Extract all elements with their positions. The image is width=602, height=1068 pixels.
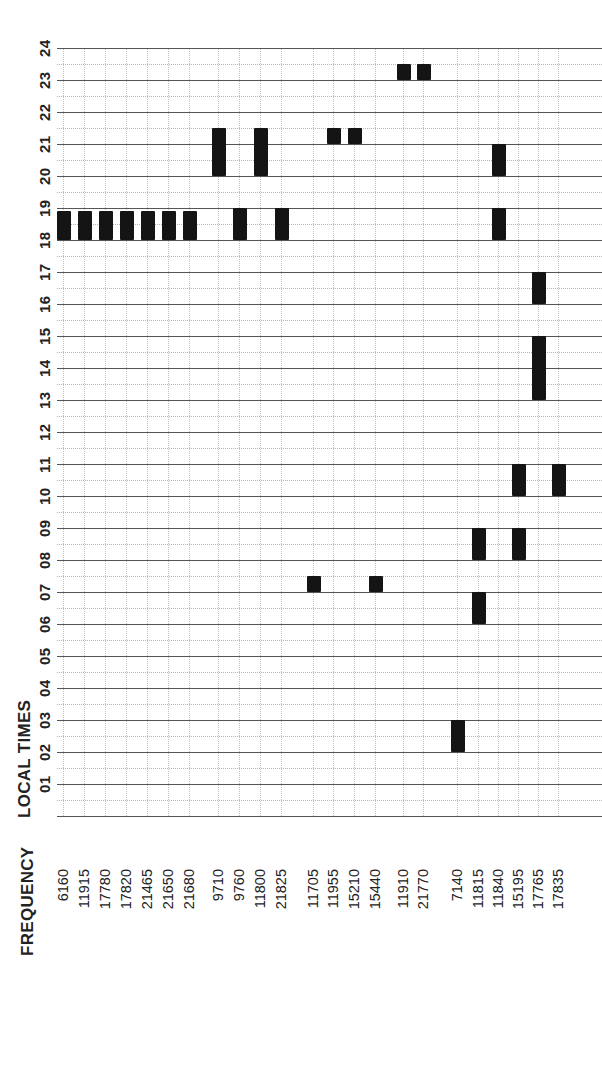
frequency-tick-label: 21680 — [181, 869, 197, 929]
schedule-bar — [451, 720, 465, 752]
schedule-bar — [492, 208, 506, 240]
half-hour-gridline — [57, 704, 602, 705]
half-hour-gridline — [57, 736, 602, 737]
schedule-bar — [369, 576, 383, 592]
hour-tick-label: 09 — [36, 519, 53, 537]
half-hour-gridline — [57, 416, 602, 417]
hour-tick-label: 03 — [36, 711, 53, 729]
schedule-bar — [141, 211, 155, 240]
half-hour-gridline — [57, 256, 602, 257]
schedule-bar — [120, 211, 134, 240]
frequency-tick-label: 6160 — [55, 869, 71, 929]
half-hour-gridline — [57, 640, 602, 641]
frequency-schedule-chart: 0102030405060708091011121314151617181920… — [0, 0, 602, 1068]
schedule-bar — [162, 211, 176, 240]
hour-tick-label: 17 — [36, 263, 53, 281]
half-hour-gridline — [57, 608, 602, 609]
frequency-tick-label: 9710 — [210, 869, 226, 929]
half-hour-gridline — [57, 672, 602, 673]
hour-tick-label: 21 — [36, 135, 53, 153]
hour-gridline — [57, 368, 602, 369]
x-axis-title: FREQUENCY — [18, 847, 38, 956]
schedule-bar — [532, 336, 546, 400]
hour-gridline — [57, 752, 602, 753]
half-hour-gridline — [57, 768, 602, 769]
hour-tick-label: 14 — [36, 359, 53, 377]
half-hour-gridline — [57, 192, 602, 193]
frequency-tick-label: 9760 — [231, 869, 247, 929]
hour-gridline — [57, 336, 602, 337]
hour-gridline — [57, 816, 602, 817]
schedule-bar — [307, 576, 321, 592]
hour-gridline — [57, 240, 602, 241]
frequency-tick-label: 15195 — [510, 869, 526, 929]
hour-gridline — [57, 272, 602, 273]
frequency-tick-label: 11705 — [305, 869, 321, 929]
hour-gridline — [57, 496, 602, 497]
hour-gridline — [57, 144, 602, 145]
hour-gridline — [57, 784, 602, 785]
schedule-bar — [183, 211, 197, 240]
half-hour-gridline — [57, 320, 602, 321]
hour-tick-label: 24 — [36, 39, 53, 57]
schedule-bar — [512, 464, 526, 496]
y-axis-title: LOCAL TIMES — [15, 700, 35, 818]
frequency-tick-label: 21825 — [273, 869, 289, 929]
hour-tick-label: 07 — [36, 583, 53, 601]
hour-tick-label: 06 — [36, 615, 53, 633]
hour-tick-label: 08 — [36, 551, 53, 569]
hour-gridline — [57, 656, 602, 657]
hour-gridline — [57, 624, 602, 625]
hour-tick-label: 19 — [36, 199, 53, 217]
hour-gridline — [57, 432, 602, 433]
frequency-tick-label: 17835 — [550, 869, 566, 929]
schedule-bar — [532, 272, 546, 304]
frequency-tick-label: 11910 — [395, 869, 411, 929]
hour-tick-label: 18 — [36, 231, 53, 249]
half-hour-gridline — [57, 384, 602, 385]
hour-tick-label: 10 — [36, 487, 53, 505]
hour-tick-label: 04 — [36, 679, 53, 697]
half-hour-gridline — [57, 800, 602, 801]
frequency-tick-label: 11815 — [470, 869, 486, 929]
hour-tick-label: 11 — [36, 456, 53, 473]
hour-gridline — [57, 208, 602, 209]
schedule-bar — [254, 128, 268, 176]
hour-tick-label: 05 — [36, 647, 53, 665]
frequency-tick-label: 21650 — [160, 869, 176, 929]
schedule-bar — [472, 592, 486, 624]
frequency-tick-label: 11915 — [76, 869, 92, 929]
half-hour-gridline — [57, 224, 602, 225]
hour-tick-label: 15 — [36, 327, 53, 345]
hour-gridline — [57, 80, 602, 81]
schedule-bar — [348, 128, 362, 144]
half-hour-gridline — [57, 64, 602, 65]
hour-tick-label: 12 — [36, 423, 53, 441]
half-hour-gridline — [57, 288, 602, 289]
hour-gridline — [57, 560, 602, 561]
schedule-bar — [212, 128, 226, 176]
hour-tick-label: 23 — [36, 71, 53, 89]
frequency-tick-label: 21465 — [139, 869, 155, 929]
frequency-tick-label: 11955 — [325, 869, 341, 929]
schedule-bar — [492, 144, 506, 176]
half-hour-gridline — [57, 160, 602, 161]
hour-tick-label: 01 — [36, 775, 53, 793]
hour-tick-label: 02 — [36, 743, 53, 761]
half-hour-gridline — [57, 576, 602, 577]
frequency-tick-label: 21770 — [415, 869, 431, 929]
schedule-bar — [512, 528, 526, 560]
hour-gridline — [57, 592, 602, 593]
hour-tick-label: 16 — [36, 295, 53, 313]
hour-gridline — [57, 720, 602, 721]
half-hour-gridline — [57, 448, 602, 449]
schedule-bar — [327, 128, 341, 144]
schedule-bar — [417, 64, 431, 80]
frequency-tick-label: 11840 — [490, 869, 506, 929]
frequency-tick-label: 15210 — [346, 869, 362, 929]
schedule-bar — [57, 211, 71, 240]
hour-gridline — [57, 400, 602, 401]
frequency-tick-label: 11800 — [252, 869, 268, 929]
half-hour-gridline — [57, 352, 602, 353]
schedule-bar — [397, 64, 411, 80]
